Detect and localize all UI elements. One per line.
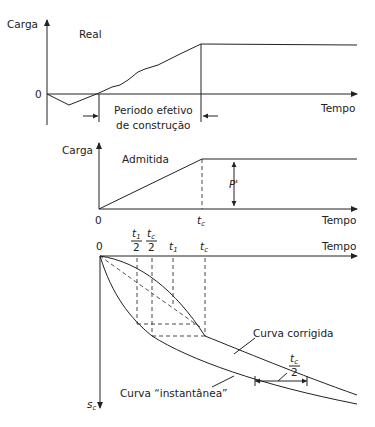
t1-label: t1 bbox=[169, 240, 178, 254]
real-load-curve bbox=[47, 44, 357, 105]
tc-label: tc bbox=[200, 240, 208, 254]
offset-label: tc 2 bbox=[289, 352, 300, 378]
offset-leader bbox=[278, 373, 287, 381]
y-axis-label: Carga bbox=[7, 18, 38, 30]
svg-text:tc: tc bbox=[290, 352, 298, 366]
x-axis-label: Tempo bbox=[321, 240, 356, 252]
tc-half-label: tc 2 bbox=[146, 227, 157, 253]
svg-text:tc: tc bbox=[147, 227, 155, 241]
panel-title: Admitida bbox=[122, 153, 169, 165]
tc-label: tc bbox=[197, 214, 205, 228]
svg-text:2: 2 bbox=[148, 241, 155, 253]
instant-curve-label: Curva “instantânea” bbox=[120, 387, 228, 399]
instant-leader bbox=[212, 376, 234, 387]
load-label: P' bbox=[229, 178, 238, 190]
settlement-correction-diagram: Carga Real 0 Tempo Periodo efetivo de co… bbox=[0, 0, 375, 427]
panel-real: Carga Real 0 Tempo Periodo efetivo de co… bbox=[7, 18, 357, 131]
svg-text:2: 2 bbox=[133, 241, 140, 253]
assumed-load-curve bbox=[99, 159, 357, 209]
panel-settlement: 0 Tempo sc t1 2 tc 2 t1 tc bbox=[87, 227, 357, 412]
corrected-curve bbox=[100, 256, 357, 395]
svg-text:t1: t1 bbox=[132, 227, 141, 241]
origin-label: 0 bbox=[95, 214, 102, 226]
panel-admitida: Carga Admitida 0 Tempo tc P' bbox=[62, 143, 357, 228]
t1-half-label: t1 2 bbox=[131, 227, 142, 253]
svg-text:2: 2 bbox=[291, 366, 298, 378]
period-label-line2: de construção bbox=[116, 119, 191, 131]
period-label-line1: Periodo efetivo bbox=[114, 104, 193, 116]
corrected-curve-label: Curva corrigida bbox=[253, 327, 334, 339]
x-axis-label: Tempo bbox=[321, 214, 356, 226]
origin-label: 0 bbox=[35, 88, 42, 100]
origin-label: 0 bbox=[96, 240, 103, 252]
y-axis-label: sc bbox=[87, 398, 96, 412]
y-axis-label: Carga bbox=[62, 144, 93, 156]
x-axis-label: Tempo bbox=[320, 102, 355, 114]
panel-title: Real bbox=[79, 28, 102, 40]
